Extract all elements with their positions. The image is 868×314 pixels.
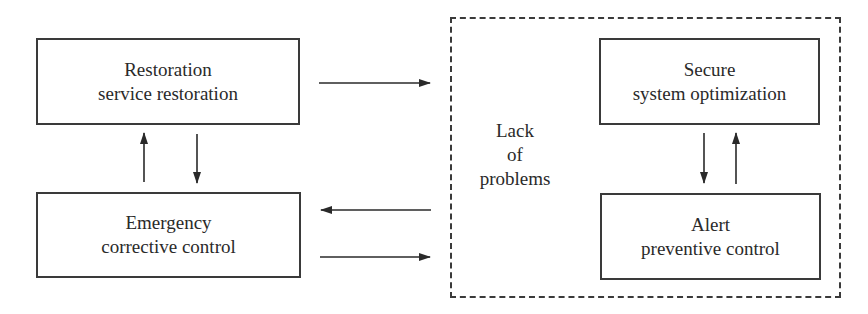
arrows-layer bbox=[0, 0, 868, 314]
